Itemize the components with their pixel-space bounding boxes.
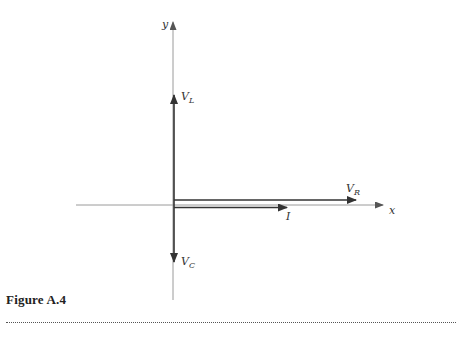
dotted-divider — [6, 322, 456, 323]
vector-i-label: I — [285, 210, 291, 223]
x-axis-label: x — [389, 204, 396, 217]
vector-vc-label: VC — [181, 255, 195, 270]
phasor-diagram: x y VL VC VR I — [0, 0, 465, 337]
vector-vr-label: VR — [346, 182, 360, 197]
y-axis-label: y — [161, 18, 169, 31]
figure-caption: Figure A.4 — [6, 292, 66, 308]
vector-vl-label: VL — [181, 90, 194, 105]
